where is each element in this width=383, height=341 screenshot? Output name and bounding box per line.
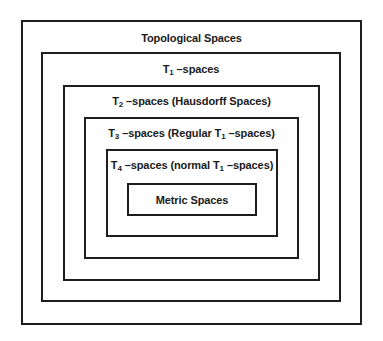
- t1-spaces-label: T1 –spaces: [43, 63, 339, 75]
- label-text: –spaces): [224, 159, 273, 171]
- label-text: –spaces: [174, 63, 220, 75]
- label-text: Metric Spaces: [156, 194, 229, 206]
- label-text: –spaces (Regular T: [119, 127, 221, 139]
- label-text: –spaces): [226, 127, 275, 139]
- metric-spaces-box: Metric Spaces: [127, 183, 257, 216]
- label-prefix: T: [112, 95, 119, 107]
- metric-spaces-label: Metric Spaces: [129, 194, 255, 206]
- topological-spaces-label: Topological Spaces: [23, 32, 360, 44]
- label-text: –spaces (normal T: [122, 159, 220, 171]
- t4-spaces-label: T4 –spaces (normal T1 –spaces): [108, 159, 276, 171]
- label-text: –spaces (Hausdorff Spaces): [123, 95, 271, 107]
- t2-spaces-label: T2 –spaces (Hausdorff Spaces): [65, 95, 318, 107]
- label-text: Topological Spaces: [141, 32, 242, 44]
- label-prefix: T: [108, 127, 115, 139]
- t3-spaces-label: T3 –spaces (Regular T1 –spaces): [86, 127, 297, 139]
